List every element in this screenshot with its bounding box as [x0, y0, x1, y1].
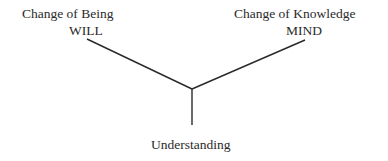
edge-knowledge-to-junction — [192, 40, 305, 89]
edge-being-to-junction — [87, 39, 192, 89]
node-being-subtitle: WILL — [69, 23, 103, 38]
node-understanding-title: Understanding — [151, 137, 230, 152]
node-knowledge-title: Change of Knowledge — [234, 6, 355, 21]
node-knowledge-subtitle: MIND — [286, 23, 322, 38]
node-being-title: Change of Being — [22, 6, 113, 21]
